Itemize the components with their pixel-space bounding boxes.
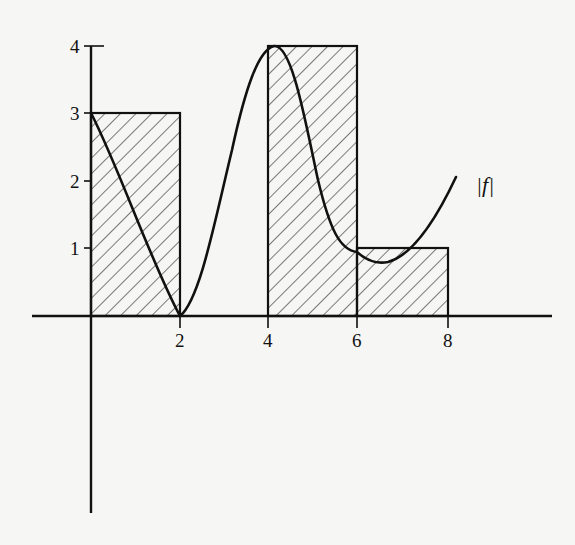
- x-ticks: [180, 316, 448, 328]
- y-tick-label-3: 3: [70, 103, 80, 124]
- x-tick-label-6: 6: [352, 330, 362, 351]
- step-bar-4-6: [268, 46, 357, 316]
- step-bars: [91, 46, 448, 316]
- chart-figure: 4 3 2 1 2 4 6 8 |f|: [0, 0, 575, 545]
- x-tick-label-8: 8: [443, 330, 453, 351]
- y-tick-label-1: 1: [70, 238, 80, 259]
- step-bar-6-8: [357, 248, 448, 316]
- curve-label: |f|: [476, 172, 494, 197]
- x-tick-label-2: 2: [175, 330, 185, 351]
- x-tick-label-4: 4: [263, 330, 273, 351]
- y-tick-label-4: 4: [70, 36, 80, 57]
- y-tick-label-2: 2: [70, 171, 80, 192]
